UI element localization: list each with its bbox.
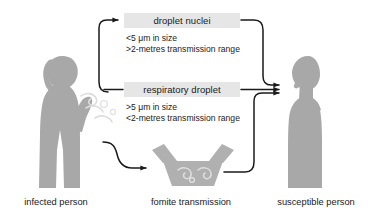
- caption-susceptible-person: susceptible person: [268, 197, 364, 207]
- spec-droplet-nuclei: <5 μm in size >2-metres transmission ran…: [126, 33, 240, 55]
- spec-droplet-nuclei-size: <5 μm in size: [126, 33, 240, 44]
- box-respiratory-droplet[interactable]: respiratory droplet: [124, 82, 240, 97]
- spec-droplet-nuclei-range: >2-metres transmission range: [126, 44, 240, 55]
- spec-respiratory-droplet-range: <2-metres transmission range: [126, 113, 240, 124]
- curved-arrow-down-right-icon: [241, 20, 279, 85]
- box-respiratory-droplet-label: respiratory droplet: [143, 84, 221, 95]
- contaminated-surface-icon: [152, 144, 234, 186]
- box-droplet-nuclei[interactable]: droplet nuclei: [124, 13, 240, 28]
- caption-infected-person: infected person: [8, 197, 104, 207]
- curved-arrow-down-icon: [103, 142, 146, 168]
- curved-arrow-up-icon: [99, 20, 118, 92]
- standing-person-silhouette-icon: [288, 56, 322, 188]
- caption-fomite-transmission: fomite transmission: [136, 197, 246, 207]
- spec-respiratory-droplet: >5 μm in size <2-metres transmission ran…: [126, 102, 240, 124]
- coughing-person-silhouette-icon: [39, 56, 116, 188]
- box-droplet-nuclei-label: droplet nuclei: [153, 15, 210, 26]
- spec-respiratory-droplet-size: >5 μm in size: [126, 102, 240, 113]
- transmission-diagram: droplet nuclei respiratory droplet <5 μm…: [0, 0, 368, 217]
